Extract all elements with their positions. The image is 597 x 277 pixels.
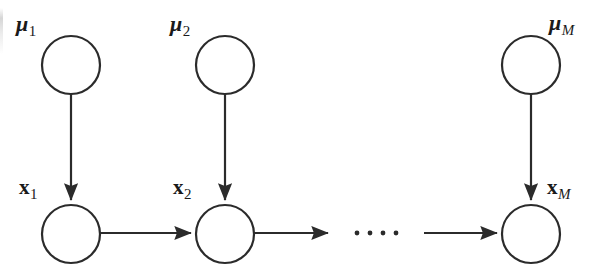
ellipsis-dot [381, 231, 386, 236]
mu-2-symbol: μ [170, 11, 182, 36]
mu-2-node [196, 36, 254, 94]
mu-M-node [502, 36, 560, 94]
mu-1-node [42, 36, 100, 94]
diagram-canvas: μ1 μ2 μM x1 x2 xM [0, 0, 597, 277]
mu-1-label: μ1 [16, 13, 36, 39]
ellipsis-dot [394, 231, 399, 236]
mu-1-subscript: 1 [28, 23, 36, 39]
x-1-node [42, 205, 100, 263]
x-2-node [196, 205, 254, 263]
chain-ellipsis [355, 231, 399, 236]
x-2-symbol: x [173, 175, 184, 199]
x-1-label: x1 [19, 177, 38, 202]
x-M-symbol: x [547, 175, 558, 199]
x-1-symbol: x [19, 175, 30, 199]
mu-M-symbol: μ [549, 10, 561, 35]
diagram-graphics [0, 0, 597, 277]
ellipsis-dot [355, 231, 360, 236]
mu-M-label: μM [549, 12, 574, 38]
ellipsis-dot [368, 231, 373, 236]
x-1-subscript: 1 [30, 186, 38, 202]
x-M-node [502, 205, 560, 263]
mu-2-label: μ2 [170, 13, 190, 39]
mu-2-subscript: 2 [182, 23, 190, 39]
x-M-label: xM [547, 177, 571, 202]
x-2-subscript: 2 [184, 186, 192, 202]
x-M-subscript: M [558, 186, 571, 202]
x-2-label: x2 [173, 177, 192, 202]
mu-1-symbol: μ [16, 11, 28, 36]
mu-M-subscript: M [561, 22, 574, 38]
